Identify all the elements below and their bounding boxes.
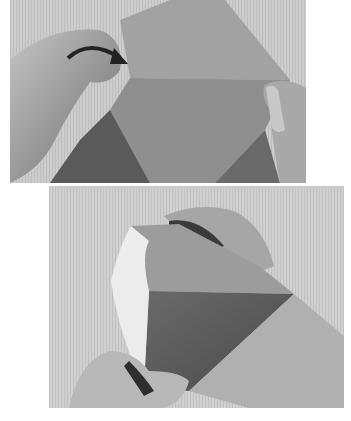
photo-top-fold-step xyxy=(10,0,306,183)
photo-bottom-cone-step xyxy=(47,184,344,408)
bottom-photo-illustration xyxy=(49,186,344,408)
top-photo-illustration xyxy=(10,0,306,183)
